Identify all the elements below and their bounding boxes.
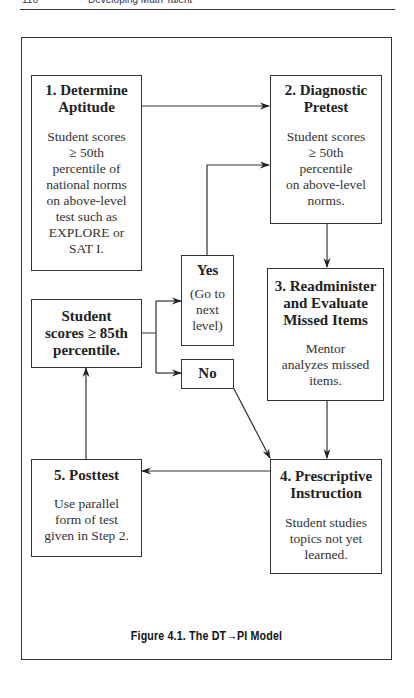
- node-heading: Yes: [182, 262, 233, 279]
- node-posttest: 5. Posttest Use parallel form of test gi…: [31, 459, 142, 557]
- node-heading: 3. Readminister and Evaluate Missed Item…: [268, 278, 383, 329]
- edge-no-step4: [233, 387, 270, 458]
- figure-caption: Figure 4.1. The DT→PI Model: [54, 628, 358, 643]
- node-determine-aptitude: 1. Determine Aptitude Student scores ≥ 5…: [31, 75, 142, 271]
- node-body: Student studies topics not yet learned.: [271, 515, 381, 563]
- node-readminister-evaluate: 3. Readminister and Evaluate Missed Item…: [267, 268, 384, 401]
- node-prescriptive-instruction: 4. Prescriptive Instruction Student stud…: [270, 459, 382, 574]
- node-heading: 5. Posttest: [32, 467, 141, 484]
- node-body: Student scores ≥ 50th percentile of nati…: [32, 129, 141, 257]
- node-heading: 1. Determine Aptitude: [32, 82, 141, 116]
- edge-yes-step2: [207, 165, 269, 255]
- node-body: (Go to next level): [182, 286, 233, 334]
- node-body: Student scores ≥ 50th percentile on abov…: [271, 129, 381, 209]
- node-heading: No: [182, 365, 233, 382]
- node-heading: 4. Prescriptive Instruction: [271, 468, 381, 502]
- node-decision-85th: Student scores ≥ 85th percentile.: [31, 299, 142, 368]
- node-body: Use parallel form of test given in Step …: [32, 496, 141, 544]
- edge-decision-branch: [141, 301, 156, 373]
- node-no: No: [181, 359, 234, 389]
- node-diagnostic-pretest: 2. Diagnostic Pretest Student scores ≥ 5…: [270, 75, 382, 224]
- node-heading: Student scores ≥ 85th percentile.: [32, 308, 141, 359]
- node-heading: 2. Diagnostic Pretest: [271, 82, 381, 116]
- node-body: Mentor analyzes missed items.: [268, 341, 383, 389]
- node-yes: Yes (Go to next level): [181, 255, 234, 346]
